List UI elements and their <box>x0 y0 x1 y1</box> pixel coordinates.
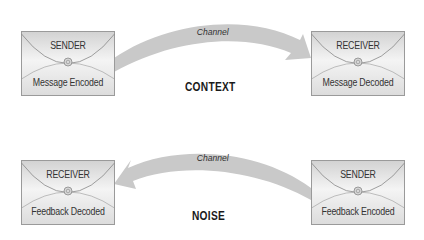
message-decoded-label: Message Decoded <box>317 77 400 88</box>
envelope-receiver-bottom: RECEIVER Feedback Decoded <box>21 160 115 225</box>
context-label: CONTEXT <box>185 80 236 94</box>
envelope-receiver-top: RECEIVER Message Decoded <box>311 31 405 96</box>
sender-label: SENDER <box>317 169 400 180</box>
envelope-sender-top: SENDER Message Encoded <box>21 31 115 96</box>
receiver-label: RECEIVER <box>317 40 400 51</box>
feedback-encoded-label: Feedback Encoded <box>317 206 400 217</box>
channel-label-top: Channel <box>197 26 229 37</box>
receiver-label: RECEIVER <box>27 169 110 180</box>
sender-label: SENDER <box>27 40 110 51</box>
envelope-sender-bottom: SENDER Feedback Encoded <box>311 160 405 225</box>
feedback-decoded-label: Feedback Decoded <box>27 206 110 217</box>
channel-label-bottom: Channel <box>197 152 229 163</box>
communication-diagram: SENDER Message Encoded RECEIVER Message … <box>0 0 424 240</box>
message-encoded-label: Message Encoded <box>27 77 110 88</box>
noise-label: NOISE <box>192 209 225 223</box>
